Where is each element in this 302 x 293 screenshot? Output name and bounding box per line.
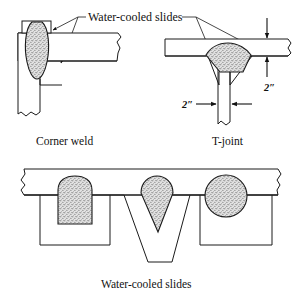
t-joint-view: 2″ 2″ T-joint bbox=[165, 18, 291, 148]
dim-web-thickness: 2″ bbox=[181, 99, 252, 110]
corner-weld-bead bbox=[25, 22, 48, 79]
section-weld-circle bbox=[205, 175, 247, 217]
section-weld-cone bbox=[141, 176, 173, 232]
water-cooled-slides-top-label: Water-cooled slides bbox=[88, 10, 183, 24]
corner-weld-view: Corner weld bbox=[18, 21, 121, 147]
t-joint-caption: T-joint bbox=[212, 135, 244, 148]
dim-web-thickness-text: 2″ bbox=[181, 99, 193, 110]
section-caption: Water-cooled slides bbox=[101, 278, 192, 290]
slides-section-view: Water-cooled slides bbox=[21, 169, 281, 290]
corner-side-slide-line bbox=[40, 79, 62, 85]
diagram-canvas: Water-cooled slides Corner weld bbox=[0, 0, 302, 293]
welding-diagram-figure: Water-cooled slides Corner weld bbox=[0, 0, 302, 293]
section-weld-dome bbox=[58, 176, 92, 224]
dim-plate-thickness-text: 2″ bbox=[263, 82, 275, 93]
corner-weld-caption: Corner weld bbox=[36, 135, 93, 147]
